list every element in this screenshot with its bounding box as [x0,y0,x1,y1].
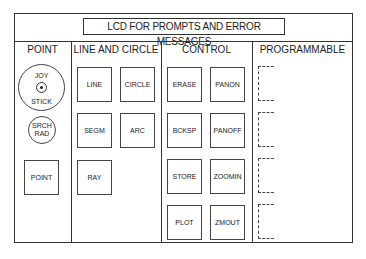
joystick[interactable]: JOY STICK [18,64,65,111]
panoff-button[interactable]: PANOFF [210,113,245,148]
search-radius-knob[interactable]: SRCH RAD [28,116,56,144]
section-title-programmable: PROGRAMMABLE [252,44,353,55]
section-title-point: POINT [14,44,71,55]
segm-button[interactable]: SEGM [77,113,112,148]
search-radius-label-1: SRCH [29,122,55,130]
joystick-label-bottom: STICK [19,98,64,105]
circle-button[interactable]: CIRCLE [120,67,155,102]
zoomin-button[interactable]: ZOOMIN [210,159,245,194]
programmable-slot-1[interactable] [258,66,274,101]
arc-button[interactable]: ARC [120,113,155,148]
bcksp-button[interactable]: BCKSP [167,113,202,148]
ray-button[interactable]: RAY [77,160,112,195]
panon-button[interactable]: PANON [210,67,245,102]
line-button[interactable]: LINE [77,67,112,102]
header-divider [14,41,353,42]
point-button[interactable]: POINT [24,160,59,195]
erase-button[interactable]: ERASE [167,67,202,102]
zmout-button[interactable]: ZMOUT [210,205,245,240]
programmable-slot-3[interactable] [258,158,274,193]
section-title-line-and-circle: LINE AND CIRCLE [71,44,161,55]
section-divider [252,41,253,243]
lcd-display: LCD FOR PROMPTS AND ERROR MESSAGES [83,18,285,35]
section-divider [161,41,162,243]
section-title-control: CONTROL [161,44,252,55]
search-radius-label-2: RAD [29,130,55,138]
programmable-slot-2[interactable] [258,112,274,147]
section-divider [71,41,72,243]
programmable-slot-4[interactable] [258,204,274,239]
plot-button[interactable]: PLOT [167,205,202,240]
store-button[interactable]: STORE [167,159,202,194]
joystick-label-top: JOY [19,72,64,79]
joystick-knob-icon [36,82,47,93]
